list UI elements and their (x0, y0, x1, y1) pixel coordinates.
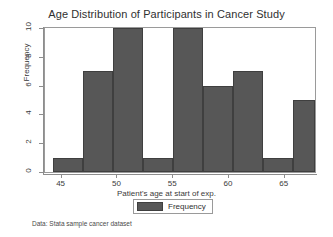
x-axis-tick (61, 174, 62, 178)
x-axis-tick (228, 174, 229, 178)
x-axis-tick-label: 60 (217, 179, 239, 188)
y-axis-tick-label: 2 (20, 137, 36, 146)
x-axis-tick-label: 55 (161, 179, 183, 188)
histogram-bar (113, 28, 143, 172)
y-axis-tick-label: 4 (20, 108, 36, 117)
y-axis-line (43, 27, 44, 174)
histogram-bar (203, 86, 233, 172)
y-axis-tick (39, 172, 43, 173)
plot-area (45, 28, 315, 172)
histogram-bar (263, 158, 293, 172)
y-axis-tick (39, 143, 43, 144)
histogram-bar (143, 158, 173, 172)
histogram-bar (83, 71, 113, 172)
y-axis-tick (39, 86, 43, 87)
legend-swatch-frequency (137, 202, 163, 211)
y-axis-tick-label: 0 (20, 166, 36, 175)
y-axis-tick (39, 28, 43, 29)
y-axis-title: Frequency (22, 23, 31, 103)
x-axis-tick-label: 65 (273, 179, 295, 188)
x-axis-line (43, 174, 317, 175)
x-axis-tick-label: 50 (105, 179, 127, 188)
histogram-bar (293, 100, 315, 172)
x-axis-title: Patient's age at start of exp. (0, 189, 333, 198)
y-axis-tick (39, 114, 43, 115)
chart-source-note: Data: Stata sample cancer dataset (32, 220, 132, 227)
x-axis-tick (284, 174, 285, 178)
histogram-bar (173, 28, 203, 172)
histogram-bar (233, 71, 263, 172)
x-axis-tick (172, 174, 173, 178)
x-axis-tick-label: 45 (50, 179, 72, 188)
legend-label-frequency: Frequency (168, 202, 206, 211)
y-axis-tick (39, 57, 43, 58)
x-axis-tick (116, 174, 117, 178)
chart-title: Age Distribution of Participants in Canc… (0, 8, 333, 20)
chart-legend: Frequency (133, 199, 213, 214)
chart-figure: Age Distribution of Participants in Canc… (0, 0, 333, 237)
histogram-bar (53, 158, 83, 172)
